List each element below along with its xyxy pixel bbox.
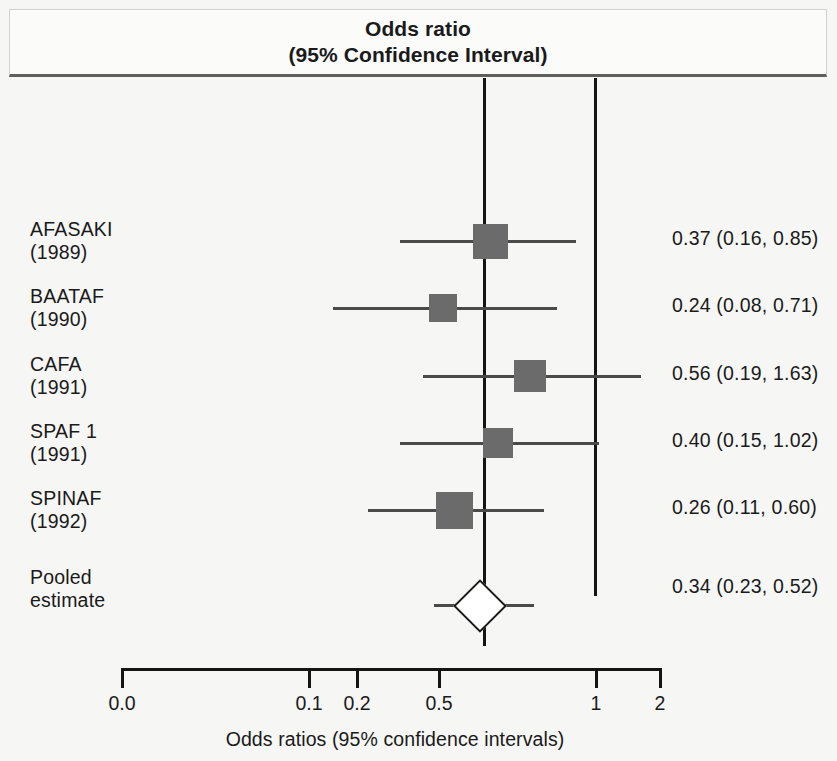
effect-estimate-marker: [483, 428, 513, 458]
forest-row: SPINAF (1992)0.26 (0.11, 0.60): [0, 487, 837, 549]
study-label: AFASAKI (1989): [30, 218, 113, 264]
forest-row: Pooled estimate0.34 (0.23, 0.52): [0, 566, 837, 628]
effect-estimate-marker: [429, 294, 457, 322]
diamond-shape: [453, 579, 507, 633]
forest-row: CAFA (1991)0.56 (0.19, 1.63): [0, 353, 837, 415]
x-axis-tick: [659, 668, 662, 688]
x-axis-tick-label: 0.1: [295, 692, 322, 715]
effect-value-label: 0.37 (0.16, 0.85): [672, 227, 819, 250]
study-label: SPINAF (1992): [30, 487, 102, 533]
x-axis-tick-label: 1: [591, 692, 602, 715]
effect-estimate-marker: [436, 492, 473, 529]
effect-value-label: 0.34 (0.23, 0.52): [672, 575, 819, 598]
x-axis-tick-label: 0.2: [343, 692, 370, 715]
study-label: CAFA (1991): [30, 353, 88, 399]
plot-area: AFASAKI (1989)0.37 (0.16, 0.85)BAATAF (1…: [0, 78, 837, 761]
pooled-estimate-diamond: [461, 587, 495, 621]
study-label: Pooled estimate: [30, 566, 105, 612]
x-axis-tick-label: 0.0: [108, 692, 135, 715]
study-label: BAATAF (1990): [30, 285, 104, 331]
forest-row: AFASAKI (1989)0.37 (0.16, 0.85): [0, 218, 837, 280]
forest-row: SPAF 1 (1991)0.40 (0.15, 1.02): [0, 420, 837, 482]
x-axis-tick-label: 0.5: [425, 692, 452, 715]
x-axis-tick: [438, 668, 441, 688]
study-label: SPAF 1 (1991): [30, 420, 97, 466]
x-axis-tick: [595, 668, 598, 688]
chart-title-line1: Odds ratio: [365, 16, 471, 42]
chart-title-line2: (95% Confidence Interval): [288, 42, 547, 68]
x-axis-tick: [356, 668, 359, 688]
x-axis-title: Odds ratios (95% confidence intervals): [0, 728, 790, 751]
x-axis: 0.00.10.20.512 Odds ratios (95% confiden…: [0, 668, 837, 761]
effect-value-label: 0.24 (0.08, 0.71): [672, 294, 819, 317]
effect-value-label: 0.26 (0.11, 0.60): [672, 496, 817, 519]
forest-plot-figure: Odds ratio (95% Confidence Interval) AFA…: [0, 0, 837, 761]
effect-estimate-marker: [473, 224, 508, 259]
x-axis-tick-label: 2: [655, 692, 666, 715]
effect-estimate-marker: [514, 360, 546, 392]
effect-value-label: 0.56 (0.19, 1.63): [672, 362, 819, 385]
x-axis-line: [121, 668, 661, 671]
chart-header-box: Odds ratio (95% Confidence Interval): [9, 9, 827, 77]
x-axis-tick: [121, 668, 124, 688]
x-axis-tick: [308, 668, 311, 688]
effect-value-label: 0.40 (0.15, 1.02): [672, 429, 819, 452]
forest-row: BAATAF (1990)0.24 (0.08, 0.71): [0, 285, 837, 347]
